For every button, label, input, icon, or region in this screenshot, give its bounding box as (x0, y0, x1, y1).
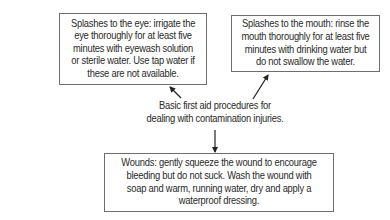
arrow-to-mouth-box (253, 75, 268, 99)
arrow-to-eye-box (170, 87, 181, 98)
connector-arrows (0, 0, 390, 220)
